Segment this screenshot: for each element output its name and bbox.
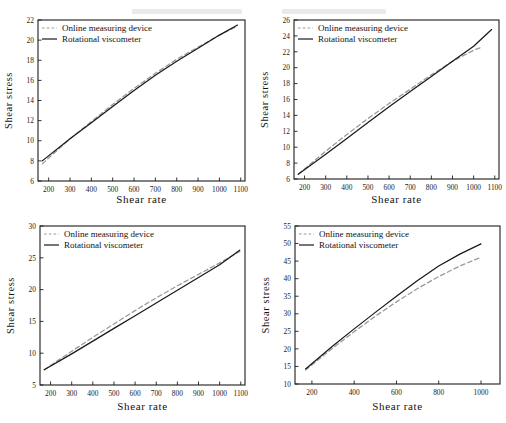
figure-grid: 2003004005006007008009001000110068101214… bbox=[0, 0, 506, 423]
scan-artifact-left bbox=[132, 9, 242, 14]
x-tick-label: 200 bbox=[306, 388, 317, 397]
y-tick-label: 20 bbox=[284, 345, 292, 354]
chart-svg-top-right: 2003004005006007008009001000110068101214… bbox=[253, 0, 506, 211]
x-tick-label: 600 bbox=[130, 389, 141, 398]
legend-label: Online measuring device bbox=[62, 23, 152, 33]
scan-artifact-right bbox=[282, 9, 386, 14]
legend-label: Rotational viscometer bbox=[318, 34, 397, 44]
x-tick-label: 700 bbox=[405, 183, 416, 192]
chart-panel-top-right: 2003004005006007008009001000110068101214… bbox=[253, 0, 506, 211]
y-tick-label: 10 bbox=[27, 136, 35, 145]
y-axis-label: Shear stress bbox=[3, 72, 14, 129]
y-tick-label: 20 bbox=[27, 36, 35, 45]
x-tick-label: 300 bbox=[320, 183, 331, 192]
x-tick-label: 400 bbox=[87, 389, 98, 398]
x-tick-label: 500 bbox=[362, 183, 373, 192]
x-tick-label: 300 bbox=[64, 185, 75, 194]
x-tick-label: 400 bbox=[86, 185, 97, 194]
y-tick-label: 22 bbox=[27, 16, 35, 25]
legend-label: Online measuring device bbox=[319, 229, 409, 239]
y-tick-label: 25 bbox=[29, 254, 37, 263]
x-tick-label: 200 bbox=[45, 389, 56, 398]
chart-svg-bottom-right: 200400600800100010152025303540455055Shea… bbox=[253, 211, 506, 423]
legend-label: Rotational viscometer bbox=[319, 240, 398, 250]
x-tick-label: 900 bbox=[193, 185, 204, 194]
y-tick-label: 18 bbox=[283, 79, 291, 88]
series-line-online-measuring-device bbox=[42, 26, 237, 164]
x-axis-label: Shear rate bbox=[372, 400, 422, 412]
y-tick-label: 16 bbox=[27, 76, 35, 85]
x-tick-label: 1000 bbox=[474, 388, 489, 397]
x-axis-label: Shear rate bbox=[371, 193, 421, 205]
y-tick-label: 12 bbox=[27, 116, 35, 125]
x-tick-label: 1100 bbox=[488, 183, 503, 192]
y-tick-label: 12 bbox=[283, 127, 291, 136]
y-tick-label: 10 bbox=[29, 349, 37, 358]
x-tick-label: 800 bbox=[171, 185, 182, 194]
x-tick-label: 200 bbox=[299, 183, 310, 192]
y-tick-label: 18 bbox=[27, 56, 35, 65]
y-tick-label: 16 bbox=[283, 95, 291, 104]
legend-label: Online measuring device bbox=[64, 229, 154, 239]
x-axis-label: Shear rate bbox=[116, 193, 166, 205]
chart-panel-top-left: 2003004005006007008009001000110068101214… bbox=[0, 0, 253, 211]
series-line-online-measuring-device bbox=[306, 257, 481, 370]
x-tick-label: 400 bbox=[349, 388, 360, 397]
y-tick-label: 22 bbox=[283, 48, 291, 57]
x-tick-label: 700 bbox=[151, 389, 162, 398]
x-tick-label: 600 bbox=[384, 183, 395, 192]
x-axis-label: Shear rate bbox=[117, 400, 167, 412]
y-tick-label: 35 bbox=[284, 292, 292, 301]
y-tick-label: 5 bbox=[32, 381, 36, 390]
x-tick-label: 800 bbox=[433, 388, 444, 397]
chart-panel-bottom-right: 200400600800100010152025303540455055Shea… bbox=[253, 211, 506, 422]
x-tick-label: 1100 bbox=[234, 389, 249, 398]
x-tick-label: 800 bbox=[172, 389, 183, 398]
series-line-online-measuring-device bbox=[44, 251, 239, 369]
y-tick-label: 50 bbox=[284, 239, 292, 248]
y-axis-label: Shear stress bbox=[260, 276, 271, 333]
y-tick-label: 8 bbox=[286, 159, 290, 168]
x-tick-label: 300 bbox=[66, 389, 77, 398]
y-tick-label: 15 bbox=[284, 362, 292, 371]
y-tick-label: 10 bbox=[283, 143, 291, 152]
y-tick-label: 26 bbox=[283, 16, 291, 25]
y-tick-label: 8 bbox=[30, 157, 34, 166]
y-tick-label: 24 bbox=[283, 32, 291, 41]
y-tick-label: 14 bbox=[27, 96, 35, 105]
x-tick-label: 1000 bbox=[212, 389, 227, 398]
legend-label: Online measuring device bbox=[318, 23, 408, 33]
y-tick-label: 10 bbox=[284, 380, 292, 389]
series-line-rotational-viscometer bbox=[42, 25, 237, 161]
y-tick-label: 20 bbox=[283, 63, 291, 72]
legend-label: Rotational viscometer bbox=[64, 240, 143, 250]
chart-svg-top-left: 2003004005006007008009001000110068101214… bbox=[0, 0, 253, 211]
series-line-rotational-viscometer bbox=[306, 244, 481, 369]
x-tick-label: 900 bbox=[447, 183, 458, 192]
y-tick-label: 14 bbox=[283, 111, 291, 120]
y-tick-label: 6 bbox=[30, 177, 34, 186]
y-tick-label: 55 bbox=[284, 222, 292, 231]
y-tick-label: 30 bbox=[29, 222, 37, 231]
x-tick-label: 1000 bbox=[466, 183, 481, 192]
y-tick-label: 20 bbox=[29, 285, 37, 294]
x-tick-label: 500 bbox=[108, 389, 119, 398]
y-axis-label: Shear stress bbox=[5, 277, 16, 334]
legend-label: Rotational viscometer bbox=[62, 34, 141, 44]
y-axis-label: Shear stress bbox=[259, 71, 270, 128]
x-tick-label: 600 bbox=[391, 388, 402, 397]
y-tick-label: 45 bbox=[284, 257, 292, 266]
y-tick-label: 40 bbox=[284, 274, 292, 283]
y-tick-label: 25 bbox=[284, 327, 292, 336]
chart-svg-bottom-left: 2003004005006007008009001000110051015202… bbox=[0, 211, 253, 423]
chart-panel-bottom-left: 2003004005006007008009001000110051015202… bbox=[0, 211, 253, 422]
y-tick-label: 30 bbox=[284, 309, 292, 318]
x-tick-label: 400 bbox=[341, 183, 352, 192]
x-tick-label: 800 bbox=[426, 183, 437, 192]
x-tick-label: 1000 bbox=[212, 185, 227, 194]
x-tick-label: 900 bbox=[193, 389, 204, 398]
y-tick-label: 15 bbox=[29, 317, 37, 326]
x-tick-label: 200 bbox=[43, 185, 54, 194]
y-tick-label: 6 bbox=[286, 175, 290, 184]
x-tick-label: 1100 bbox=[233, 185, 248, 194]
